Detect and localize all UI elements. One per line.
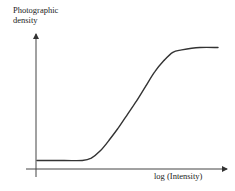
x-axis-label: log (Intensity)	[154, 171, 202, 181]
density-curve	[37, 47, 218, 160]
chart-plot	[0, 0, 235, 191]
